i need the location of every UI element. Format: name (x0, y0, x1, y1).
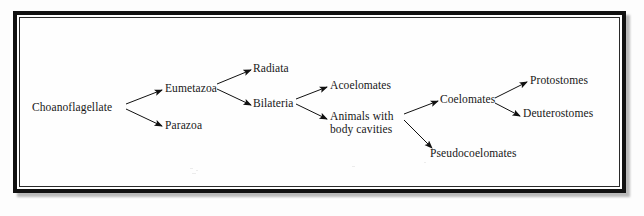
node-parazoa: Parazoa (165, 119, 202, 132)
scan-speckle (196, 170, 198, 171)
edge-bilateria-acoelomates (296, 87, 327, 99)
diagram-canvas: Choanoflagellate Eumetazoa Parazoa Radia… (20, 18, 619, 186)
scan-speckle (352, 166, 355, 167)
edge-coelomates-protostomes (495, 82, 527, 98)
edge-eumetazoa-radiata (217, 70, 251, 84)
node-animals-with-body-cavities: Animals with body cavities (330, 110, 394, 136)
node-acoelomates: Acoelomates (330, 79, 391, 92)
scan-speckle (190, 168, 193, 169)
scan-speckle (424, 162, 426, 163)
edge-choanoflagellate-eumetazoa (126, 90, 162, 104)
node-protostomes: Protostomes (530, 74, 588, 87)
node-radiata: Radiata (253, 62, 289, 75)
node-deuterostomes: Deuterostomes (523, 107, 593, 120)
edge-coelomates-deuterostomes (495, 103, 520, 116)
node-coelomates: Coelomates (440, 93, 495, 106)
edge-bodycavities-pseudocoelomates (404, 120, 432, 148)
node-bilateria: Bilateria (253, 97, 294, 110)
edge-bodycavities-coelomates (404, 101, 438, 114)
edge-choanoflagellate-parazoa (126, 109, 162, 126)
node-eumetazoa: Eumetazoa (165, 82, 217, 95)
scanned-figure: Choanoflagellate Eumetazoa Parazoa Radia… (0, 0, 644, 216)
node-choanoflagellate: Choanoflagellate (32, 101, 112, 114)
node-pseudocoelomates: Pseudocoelomates (430, 147, 517, 160)
scan-speckle (192, 173, 196, 174)
edge-eumetazoa-bilateria (217, 89, 251, 105)
edge-bilateria-bodycavities (296, 104, 327, 119)
